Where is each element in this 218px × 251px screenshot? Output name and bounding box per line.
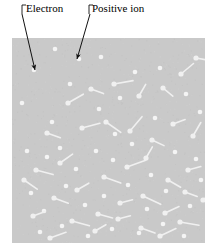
electron-particle bbox=[133, 70, 138, 75]
electron-particle bbox=[32, 68, 37, 73]
positive-ion-particle bbox=[193, 55, 205, 61]
electron-particle bbox=[126, 183, 131, 188]
electron-particle bbox=[111, 158, 116, 163]
positive-ion-particle bbox=[21, 177, 37, 189]
electron-particle bbox=[199, 178, 204, 183]
positive-ion-label: Positive ion bbox=[92, 3, 144, 14]
positive-ion-particle bbox=[190, 123, 200, 139]
positive-ion-particle bbox=[101, 174, 120, 183]
positive-ion-particle bbox=[178, 64, 193, 77]
positive-ion-particle bbox=[165, 177, 180, 187]
positive-ion-particle bbox=[74, 183, 88, 192]
ionized-gas-region bbox=[12, 38, 205, 243]
positive-ion-particle bbox=[143, 147, 152, 161]
positive-ion-particle bbox=[30, 212, 45, 219]
electron-particle bbox=[38, 230, 43, 235]
electron-particle bbox=[149, 173, 154, 178]
positive-ion-particle bbox=[47, 232, 66, 240]
electron-particle bbox=[29, 191, 34, 196]
electron-particle bbox=[74, 167, 79, 172]
positive-ion-particle bbox=[185, 167, 200, 173]
electron-particle bbox=[184, 92, 189, 97]
electron-particle bbox=[20, 101, 25, 106]
positive-ion-particle bbox=[57, 154, 72, 165]
positive-ion-particle bbox=[92, 225, 106, 234]
positive-ion-particle bbox=[111, 81, 133, 87]
electron-particle bbox=[130, 142, 135, 147]
electron-particle bbox=[164, 189, 169, 194]
positive-ion-particle bbox=[182, 189, 197, 196]
electron-particle bbox=[45, 155, 50, 160]
electron-particle bbox=[99, 55, 104, 60]
electron-particle bbox=[194, 157, 199, 162]
positive-ion-particle bbox=[149, 137, 164, 145]
electron-particle bbox=[158, 66, 163, 71]
plasma-figure: Electron Positive ion bbox=[0, 0, 218, 251]
electron-particle bbox=[113, 132, 118, 137]
electron-particle bbox=[188, 204, 193, 209]
positive-ion-particle bbox=[140, 193, 160, 204]
positive-ion-particle bbox=[124, 160, 145, 169]
electron-particle bbox=[145, 207, 150, 212]
positive-ion-particle bbox=[44, 130, 60, 137]
positive-ion-particle bbox=[88, 86, 103, 93]
positive-ion-particle bbox=[95, 211, 112, 218]
electron-particle bbox=[153, 116, 158, 121]
electron-particle bbox=[58, 146, 63, 151]
electron-particle bbox=[137, 231, 142, 236]
electron-particle bbox=[110, 227, 115, 232]
particles-layer bbox=[12, 38, 205, 243]
electron-particle bbox=[25, 149, 30, 154]
electron-particle bbox=[118, 96, 123, 101]
positive-ion-particle bbox=[51, 195, 68, 203]
electron-label: Electron bbox=[26, 3, 63, 14]
positive-ion-particle bbox=[127, 117, 142, 134]
electron-particle bbox=[77, 57, 82, 62]
electron-particle bbox=[64, 184, 69, 189]
positive-ion-particle bbox=[170, 120, 185, 127]
electron-particle bbox=[94, 149, 99, 154]
electron-particle bbox=[102, 194, 107, 199]
electron-particle bbox=[173, 150, 178, 155]
positive-ion-particle bbox=[103, 119, 120, 132]
positive-ion-particle bbox=[79, 123, 100, 130]
electron-particle bbox=[161, 222, 166, 227]
positive-ion-particle bbox=[65, 94, 83, 105]
electron-particle bbox=[53, 47, 58, 52]
positive-ion-particle bbox=[117, 200, 132, 206]
electron-particle bbox=[182, 234, 187, 239]
positive-ion-particle bbox=[69, 218, 89, 225]
electron-particle bbox=[97, 107, 102, 112]
electron-particle bbox=[198, 110, 203, 115]
electron-particle bbox=[68, 82, 73, 87]
positive-ion-particle bbox=[200, 192, 205, 203]
electron-particle bbox=[83, 203, 88, 208]
positive-ion-particle bbox=[157, 229, 176, 239]
electron-particle bbox=[86, 234, 91, 239]
positive-ion-particle bbox=[160, 85, 172, 96]
positive-ion-particle bbox=[177, 219, 199, 225]
electron-particle bbox=[60, 224, 65, 229]
electron-particle bbox=[50, 120, 55, 125]
positive-ion-particle bbox=[136, 84, 145, 98]
positive-ion-particle bbox=[115, 216, 130, 222]
positive-ion-particle bbox=[33, 167, 53, 174]
